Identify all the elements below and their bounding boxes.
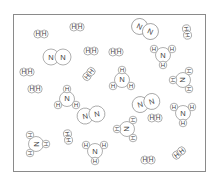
hydrogen-label: H — [170, 46, 174, 52]
nh3-molecule: NHHH — [150, 45, 176, 69]
hydrogen-label: H — [85, 47, 90, 54]
n2-molecule: NN — [129, 16, 161, 42]
hydrogen-label: H — [161, 62, 165, 68]
h2-molecule: HH — [148, 114, 162, 122]
h2-molecule: HH — [70, 23, 84, 31]
h2-molecule: HH — [171, 145, 187, 160]
hydrogen-label: H — [110, 48, 115, 55]
hydrogen-label: H — [152, 46, 156, 52]
hydrogen-label: H — [21, 68, 26, 75]
hydrogen-label: H — [28, 68, 33, 75]
hydrogen-label: H — [117, 48, 122, 55]
hydrogen-label: H — [36, 85, 41, 92]
nh3-molecule: NHHH — [54, 85, 80, 109]
hydrogen-label: H — [92, 47, 97, 54]
nitrogen-label: N — [48, 53, 53, 62]
h2-molecule: HH — [109, 48, 123, 56]
hydrogen-label: H — [130, 136, 136, 140]
hydrogen-label: H — [172, 104, 176, 110]
hydrogen-label: H — [27, 133, 33, 137]
hydrogen-label: H — [156, 114, 161, 121]
n2-molecule: NN — [43, 49, 71, 65]
nh3-molecule: NHHH — [170, 103, 196, 127]
h2-molecule: HH — [20, 68, 34, 76]
nitrogen-label: N — [32, 141, 41, 146]
nitrogen-label: N — [178, 77, 187, 82]
hydrogen-label: H — [111, 83, 115, 89]
hydrogen-label: H — [29, 85, 34, 92]
hydrogen-label: H — [149, 156, 154, 163]
hydrogen-label: H — [190, 104, 194, 110]
hydrogen-label: H — [43, 142, 49, 146]
h2-molecule: HH — [63, 129, 73, 145]
hydrogen-label: H — [35, 30, 40, 37]
n2-molecule: NN — [130, 92, 161, 115]
n2-molecule: NN — [76, 105, 106, 126]
nitrogen-label: N — [60, 53, 65, 62]
nitrogen-label: N — [92, 147, 97, 156]
nitrogen-label: N — [122, 126, 131, 131]
nh3-molecule: NHHH — [169, 67, 193, 93]
hydrogen-label: H — [56, 102, 60, 108]
hydrogen-label: H — [27, 151, 33, 155]
nh3-molecule: NHHH — [26, 131, 50, 157]
hydrogen-label: H — [149, 114, 154, 121]
h2-molecule: HH — [141, 156, 155, 164]
h2-molecule: HH — [81, 66, 96, 82]
hydrogen-label: H — [170, 78, 176, 82]
hydrogen-label: H — [129, 83, 133, 89]
h2-molecule: HH — [84, 47, 98, 55]
h2-molecule: HH — [28, 85, 42, 93]
nh3-molecule: NHHH — [113, 116, 137, 142]
hydrogen-label: H — [186, 87, 192, 91]
h2-molecule: HH — [182, 24, 192, 40]
hydrogen-label: H — [84, 142, 88, 148]
hydrogen-label: H — [181, 120, 185, 126]
nitrogen-label: N — [180, 109, 185, 118]
h2-molecule: HH — [34, 30, 48, 38]
hydrogen-label: H — [186, 69, 192, 73]
nh3-molecule: NHHH — [82, 141, 108, 165]
hydrogen-label: H — [142, 156, 147, 163]
hydrogen-label: H — [65, 86, 69, 92]
nh3-molecule: NHHH — [109, 66, 135, 90]
hydrogen-label: H — [78, 23, 83, 30]
hydrogen-label: H — [114, 127, 120, 131]
hydrogen-label: H — [74, 102, 78, 108]
hydrogen-label: H — [42, 30, 47, 37]
hydrogen-label: H — [71, 23, 76, 30]
nitrogen-label: N — [64, 94, 69, 103]
hydrogen-label: H — [93, 158, 97, 164]
hydrogen-label: H — [130, 118, 136, 122]
nitrogen-label: N — [119, 75, 124, 84]
hydrogen-label: H — [102, 142, 106, 148]
hydrogen-label: H — [120, 67, 124, 73]
nitrogen-label: N — [160, 51, 165, 60]
molecule-scene: HHHHNNHHHHNNHHNHHHHHHHNHHHNHHHHHNHHHNNNN… — [0, 0, 220, 180]
